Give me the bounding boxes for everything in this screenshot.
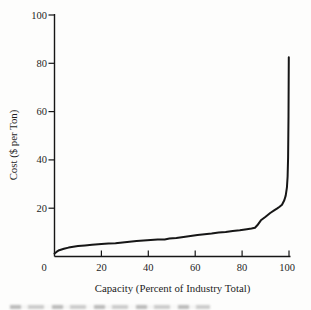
y-tick-label-100: 100 — [31, 10, 47, 21]
y-axis-title: Cost ($ per Ton) — [7, 109, 20, 180]
x-tick-label-40: 40 — [143, 262, 154, 273]
x-tick-label-80: 80 — [237, 262, 248, 273]
cost-capacity-chart: 20 40 60 80 100 0 20 40 60 80 100 Capaci… — [0, 0, 311, 310]
x-tick-label-100: 100 — [279, 262, 295, 273]
y-tick-label-40: 40 — [37, 154, 48, 165]
cropped-caption-fragment — [10, 305, 210, 309]
y-axis-ticks — [49, 15, 55, 208]
y-tick-label-80: 80 — [37, 58, 48, 69]
y-tick-label-60: 60 — [37, 106, 48, 117]
x-tick-label-60: 60 — [190, 262, 201, 273]
x-tick-label-20: 20 — [96, 262, 107, 273]
y-tick-label-20: 20 — [37, 203, 48, 214]
x-axis-title: Capacity (Percent of Industry Total) — [95, 282, 251, 295]
cost-capacity-figure: 20 40 60 80 100 0 20 40 60 80 100 Capaci… — [0, 0, 311, 310]
x-axis-ticks — [101, 251, 289, 257]
cost-curve — [55, 57, 289, 253]
x-tick-label-0: 0 — [41, 262, 46, 273]
